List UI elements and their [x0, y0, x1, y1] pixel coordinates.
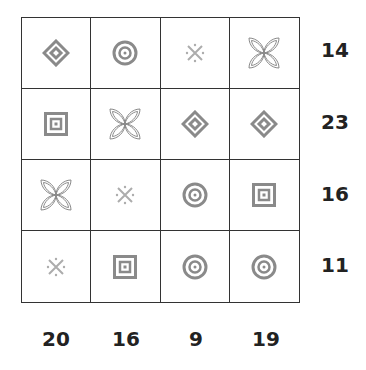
asterisk-icon [45, 256, 67, 278]
row-sum-2: 23 [315, 110, 355, 134]
col-sum-4: 19 [231, 327, 301, 351]
cell-r1-c1 [22, 18, 91, 89]
cell-r3-c1 [22, 160, 91, 231]
cell-r1-c4 [230, 18, 299, 89]
row-sum-3: 16 [315, 182, 355, 206]
row-sum-1: 14 [315, 38, 355, 62]
target-icon [251, 254, 277, 280]
square-icon [252, 183, 276, 207]
clover-icon [246, 35, 282, 71]
clover-icon [38, 177, 74, 213]
target-icon [182, 182, 208, 208]
puzzle-grid [21, 17, 300, 303]
cell-r3-c2 [91, 160, 160, 231]
asterisk-icon [184, 42, 206, 64]
cell-r2-c3 [161, 89, 230, 160]
col-sum-2: 16 [91, 327, 161, 351]
diamond-icon [42, 39, 70, 67]
cell-r1-c3 [161, 18, 230, 89]
cell-r2-c4 [230, 89, 299, 160]
asterisk-icon [114, 184, 136, 206]
cell-r3-c4 [230, 160, 299, 231]
clover-icon [107, 106, 143, 142]
cell-r3-c3 [161, 160, 230, 231]
cell-r1-c2 [91, 18, 160, 89]
diamond-icon [181, 110, 209, 138]
cell-r4-c2 [91, 231, 160, 302]
col-sum-1: 20 [21, 327, 91, 351]
row-sum-4: 11 [315, 253, 355, 277]
cell-r2-c1 [22, 89, 91, 160]
target-icon [112, 40, 138, 66]
square-icon [113, 255, 137, 279]
diamond-icon [250, 110, 278, 138]
square-icon [44, 112, 68, 136]
cell-r4-c4 [230, 231, 299, 302]
target-icon [182, 254, 208, 280]
cell-r4-c1 [22, 231, 91, 302]
cell-r2-c2 [91, 89, 160, 160]
col-sum-3: 9 [161, 327, 231, 351]
cell-r4-c3 [161, 231, 230, 302]
